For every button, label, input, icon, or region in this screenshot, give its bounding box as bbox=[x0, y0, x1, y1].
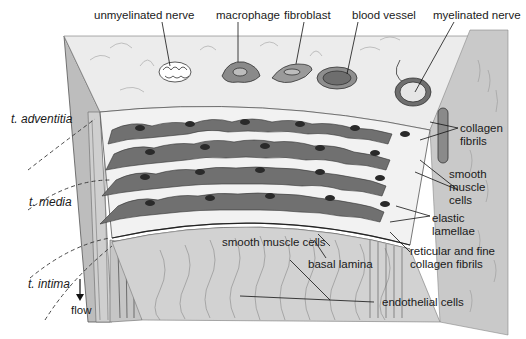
down-arrow-icon bbox=[76, 279, 84, 301]
label-blood-vessel: blood vessel bbox=[352, 9, 416, 22]
label-reticular-collagen-fibrils: reticular and fine collagen fibrils bbox=[410, 245, 495, 271]
artery-illustration bbox=[0, 0, 526, 339]
label-smooth-muscle-cells: smooth muscle cells bbox=[222, 236, 326, 249]
label-smooth-muscle-cells-right: smooth muscle cells bbox=[449, 168, 487, 207]
artery-wall-diagram: unmyelinated nerve macrophage fibroblast… bbox=[0, 0, 526, 339]
label-myelinated-nerve: myelinated nerve bbox=[433, 9, 521, 22]
label-collagen-fibrils: collagen fibrils bbox=[460, 122, 503, 148]
label-unmyelinated-nerve: unmyelinated nerve bbox=[94, 9, 194, 22]
label-basal-lamina: basal lamina bbox=[308, 258, 373, 271]
label-fibroblast: fibroblast bbox=[284, 9, 331, 22]
label-elastic-lamellae: elastic lamellae bbox=[432, 212, 475, 238]
label-endothelial-cells: endothelial cells bbox=[382, 296, 464, 309]
label-t-adventitia: t. adventitia bbox=[11, 113, 72, 126]
label-t-intima: t. intima bbox=[28, 278, 70, 291]
label-t-media: t. media bbox=[29, 196, 72, 209]
label-macrophage: macrophage bbox=[216, 9, 280, 22]
label-flow: flow bbox=[71, 304, 91, 317]
